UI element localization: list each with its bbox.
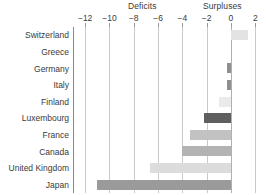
category-label-greece: Greece bbox=[41, 47, 69, 57]
category-label-finland: Finland bbox=[41, 97, 69, 107]
plot-area bbox=[73, 27, 265, 193]
bar-row bbox=[73, 27, 265, 44]
bar-row bbox=[73, 93, 265, 110]
tick-label--8: −8 bbox=[129, 13, 139, 23]
bar-row bbox=[73, 143, 265, 160]
deficits-band-label: Deficits bbox=[128, 1, 157, 11]
category-label-united-kingdom: United Kingdom bbox=[9, 163, 69, 173]
y-axis-category-labels: SwitzerlandGreeceGermanyItalyFinlandLuxe… bbox=[0, 27, 69, 193]
bar-france bbox=[190, 130, 231, 140]
bar-finland bbox=[219, 97, 231, 107]
tick-label--10: −10 bbox=[102, 13, 116, 23]
bar-row bbox=[73, 110, 265, 127]
category-label-italy: Italy bbox=[53, 80, 69, 90]
bar-row bbox=[73, 176, 265, 193]
bar-row bbox=[73, 44, 265, 61]
category-label-switzerland: Switzerland bbox=[25, 30, 69, 40]
category-label-canada: Canada bbox=[39, 147, 69, 157]
bar-row bbox=[73, 160, 265, 177]
bar-chart: Deficits Surpluses −12−10−8−6−4−202 Swit… bbox=[0, 0, 266, 195]
bar-italy bbox=[227, 80, 231, 90]
tick-label--12: −12 bbox=[78, 13, 92, 23]
tick-label-0: 0 bbox=[229, 13, 234, 23]
tick-label-2: 2 bbox=[253, 13, 258, 23]
category-label-germany: Germany bbox=[34, 64, 69, 74]
category-label-luxembourg: Luxembourg bbox=[22, 113, 69, 123]
tick-label--4: −4 bbox=[178, 13, 188, 23]
category-label-france: France bbox=[43, 130, 69, 140]
bar-switzerland bbox=[231, 30, 248, 40]
bar-germany bbox=[227, 63, 231, 73]
tick-label--2: −2 bbox=[202, 13, 212, 23]
bar-japan bbox=[97, 180, 231, 190]
bar-united-kingdom bbox=[150, 163, 231, 173]
bar-canada bbox=[182, 146, 231, 156]
tick-label--6: −6 bbox=[153, 13, 163, 23]
category-label-japan: Japan bbox=[46, 180, 69, 190]
bar-row bbox=[73, 77, 265, 94]
bar-luxembourg bbox=[204, 113, 231, 123]
bar-row bbox=[73, 127, 265, 144]
bar-row bbox=[73, 60, 265, 77]
bars bbox=[73, 27, 265, 193]
surpluses-band-label: Surpluses bbox=[203, 1, 242, 11]
